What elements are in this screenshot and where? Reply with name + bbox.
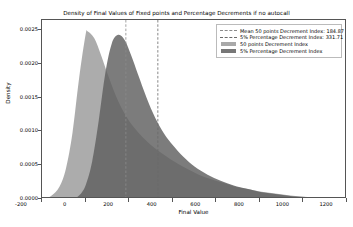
x-tick-label: 0 bbox=[45, 201, 85, 207]
chart-title: Density of Final Values of Fixed points … bbox=[0, 10, 353, 16]
x-tick-mark bbox=[259, 198, 260, 202]
y-tick-label: 0.0010 bbox=[0, 127, 38, 133]
x-tick-mark bbox=[346, 198, 347, 202]
x-tick-label: 1200 bbox=[306, 201, 346, 207]
legend-label: 50 points Decrement Index bbox=[240, 41, 308, 47]
legend-item[interactable]: 50 points Decrement Index bbox=[220, 41, 338, 47]
chart-legend: Mean 50 points Decrement Index: 184.875%… bbox=[216, 24, 342, 58]
patch-glyph bbox=[221, 42, 236, 46]
x-tick-label: 200 bbox=[88, 201, 128, 207]
y-tick-label: 0.0025 bbox=[0, 26, 38, 32]
x-tick-mark bbox=[41, 198, 42, 202]
x-tick-label: 600 bbox=[175, 201, 215, 207]
density-chart-figure: Density of Final Values of Fixed points … bbox=[0, 0, 353, 227]
legend-item[interactable]: Mean 50 points Decrement Index: 184.87 bbox=[220, 28, 338, 34]
dashed-line-glyph bbox=[220, 30, 237, 31]
x-tick-mark bbox=[128, 198, 129, 202]
legend-item[interactable]: 5% Percentage Decrement Index bbox=[220, 48, 338, 54]
x-tick-label: 1000 bbox=[262, 201, 302, 207]
legend-label: 5% Percentage Decrement Index: 331.71 bbox=[240, 34, 343, 40]
dashed-line-glyph bbox=[220, 37, 237, 38]
x-axis-label: Final Value bbox=[41, 209, 346, 215]
x-tick-label: 800 bbox=[219, 201, 259, 207]
legend-dashed-line-icon bbox=[220, 28, 237, 34]
x-tick-mark bbox=[215, 198, 216, 202]
density-area bbox=[73, 35, 347, 198]
y-tick-label: 0.0020 bbox=[0, 60, 38, 66]
x-tick-mark bbox=[172, 198, 173, 202]
legend-label: Mean 50 points Decrement Index: 184.87 bbox=[240, 28, 344, 34]
x-tick-mark bbox=[85, 198, 86, 202]
x-tick-label: 400 bbox=[132, 201, 172, 207]
patch-glyph bbox=[221, 49, 236, 53]
legend-patch-icon bbox=[220, 41, 237, 47]
y-tick-label: 0.0005 bbox=[0, 161, 38, 167]
legend-dashed-line-icon bbox=[220, 34, 237, 40]
legend-patch-icon bbox=[220, 48, 237, 54]
x-tick-label: -200 bbox=[1, 201, 41, 207]
x-tick-mark bbox=[302, 198, 303, 202]
legend-label: 5% Percentage Decrement Index bbox=[240, 48, 322, 54]
legend-item[interactable]: 5% Percentage Decrement Index: 331.71 bbox=[220, 34, 338, 40]
y-tick-label: 0.0015 bbox=[0, 94, 38, 100]
